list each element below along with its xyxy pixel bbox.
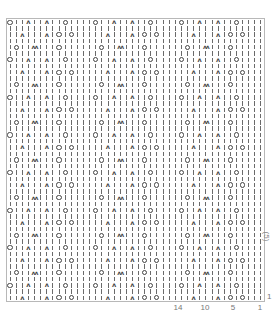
x-tick-5: 5 — [231, 303, 235, 312]
y-tick-1: 1 — [267, 292, 271, 301]
y-side-label: (5) — [262, 232, 271, 242]
knitting-chart-grid: ʌʌʌʌʌʌʌʌʌʌʌʌʌʌʌʌʌʌʌʌʌʌʌʌʌʌʌʌʌʌʌʌʌʌʌʌʌʌʌʌ… — [6, 18, 265, 302]
x-tick-1: 1 — [258, 303, 262, 312]
x-tick-14: 14 — [174, 303, 183, 312]
x-tick-10: 10 — [201, 303, 210, 312]
knit-symbol — [258, 295, 264, 301]
